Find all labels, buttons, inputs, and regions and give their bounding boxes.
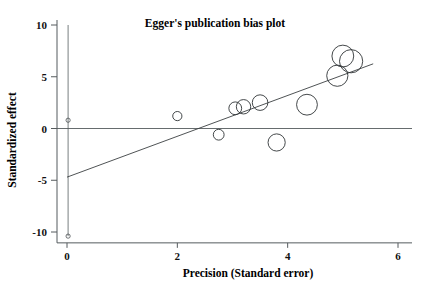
y-tick-label: 5 — [42, 71, 48, 83]
data-point-bubble — [332, 45, 354, 67]
y-tick-label: 10 — [36, 19, 48, 31]
y-tick-label: 0 — [42, 123, 48, 135]
data-point-bubble — [252, 95, 268, 111]
x-tick-label: 0 — [64, 250, 70, 262]
chart-title: Egger's publication bias plot — [145, 17, 285, 30]
regression-line-group — [67, 64, 373, 177]
data-point-bubble — [213, 129, 224, 140]
data-point-bubble — [268, 134, 285, 151]
plot-canvas: 1050-5-100246 Egger's publication bias p… — [0, 0, 430, 290]
tick-labels-group: 1050-5-100246 — [32, 19, 401, 262]
axes-group — [57, 20, 412, 243]
x-tick-label: 2 — [175, 250, 181, 262]
data-point-bubble — [340, 50, 363, 73]
data-point-bubble — [173, 111, 182, 120]
x-axis-title: Precision (Standard error) — [183, 267, 314, 280]
confidence-line-group — [66, 25, 70, 238]
egger-publication-bias-plot: 1050-5-100246 Egger's publication bias p… — [0, 0, 430, 290]
regression-fit-line — [67, 64, 373, 177]
y-tick-label: -5 — [38, 174, 48, 186]
x-tick-label: 6 — [395, 250, 401, 262]
y-tick-label: -10 — [32, 226, 47, 238]
data-point-bubble — [327, 65, 348, 86]
data-point-bubble — [297, 94, 318, 115]
x-tick-label: 4 — [285, 250, 291, 262]
y-axis-title: Standardized effect — [6, 92, 18, 188]
data-points-group — [173, 45, 363, 151]
